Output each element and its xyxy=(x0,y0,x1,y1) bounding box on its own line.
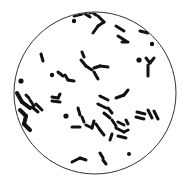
rod-bacterium xyxy=(148,110,152,118)
rod-bacterium xyxy=(100,130,104,135)
rod-bacterium xyxy=(41,54,43,61)
rod-bacterium xyxy=(100,66,108,67)
coccus-bacterium xyxy=(127,152,131,156)
rod-bacterium xyxy=(82,52,84,57)
rod-bacterium xyxy=(32,107,38,112)
rod-bacterium xyxy=(58,72,63,76)
rod-bacterium xyxy=(110,134,112,140)
rod-bacterium xyxy=(154,111,158,119)
rod-bacterium xyxy=(80,158,86,160)
rod-bacterium xyxy=(22,102,30,108)
rod-bacterium xyxy=(94,72,98,79)
rod-bacterium xyxy=(52,101,60,102)
rod-bacterium xyxy=(78,108,80,115)
coccus-bacterium xyxy=(136,57,141,62)
rod-bacterium xyxy=(36,104,42,110)
rod-bacterium xyxy=(124,90,128,95)
rod-bacterium xyxy=(118,136,126,138)
coccus-bacterium xyxy=(150,42,154,46)
bacteria-group xyxy=(17,11,158,164)
microscope-field xyxy=(0,0,184,180)
rod-bacterium xyxy=(118,122,124,125)
rod-bacterium xyxy=(126,120,128,124)
field-of-view-border xyxy=(14,12,176,174)
rod-bacterium xyxy=(98,104,106,108)
rod-bacterium xyxy=(100,153,103,158)
rod-bacterium xyxy=(137,112,145,114)
rod-bacterium xyxy=(150,58,154,63)
rod-bacterium xyxy=(30,100,34,106)
rod-bacterium xyxy=(58,94,60,98)
rod-bacterium xyxy=(82,117,84,122)
rod-bacterium xyxy=(26,95,29,98)
rod-bacterium xyxy=(108,108,112,113)
rod-bacterium xyxy=(136,117,144,119)
coccus-bacterium xyxy=(63,113,68,118)
rod-bacterium xyxy=(68,80,74,81)
coccus-bacterium xyxy=(50,73,54,77)
rod-bacterium xyxy=(92,121,94,128)
rod-bacterium xyxy=(86,66,92,70)
coccus-bacterium xyxy=(18,78,23,83)
rod-bacterium xyxy=(112,120,116,126)
rod-bacterium xyxy=(103,160,106,164)
coccus-bacterium xyxy=(134,16,137,19)
rod-bacterium xyxy=(116,26,124,31)
coccus-bacterium xyxy=(72,19,76,23)
rod-bacterium xyxy=(24,124,30,130)
rod-bacterium xyxy=(124,130,128,132)
rod-bacterium xyxy=(93,26,98,33)
rod-bacterium xyxy=(104,113,110,118)
rod-bacterium xyxy=(147,28,150,31)
rod-bacterium xyxy=(118,36,126,41)
rod-bacterium xyxy=(100,96,108,100)
